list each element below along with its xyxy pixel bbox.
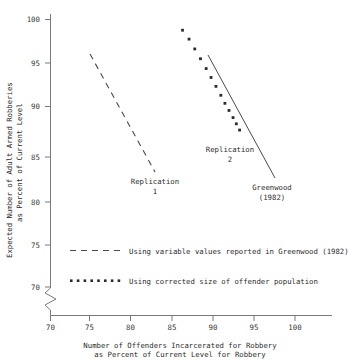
greenwood-solid-line (208, 55, 275, 178)
x-tick-label-100: 100 (288, 323, 301, 332)
y-tick-label-75: 75 (31, 241, 40, 250)
y-tick-label-100: 100 (27, 15, 40, 24)
replication-2-data-point (238, 129, 241, 132)
replication-2-data-point (181, 29, 184, 32)
x-axis-title: Number of Offenders Incarcerated for Rob… (83, 341, 277, 359)
x-tick-label-80: 80 (126, 323, 135, 332)
annotation-replication-1-line2: 1 (153, 187, 157, 196)
annotation-replication-1-line1: Replication (131, 177, 179, 186)
x-axis-tick-labels: 70 75 80 85 90 95 100 (46, 323, 302, 332)
y-axis-ticks (45, 20, 51, 288)
legend-dotted-line-icon (104, 279, 107, 282)
legend-dotted-line-icon (84, 279, 87, 282)
y-axis-title: Expected Number of Adult Armed Robberies… (5, 82, 24, 258)
replication-2-data-point (205, 67, 208, 70)
y-tick-label-85: 85 (31, 153, 40, 162)
annotation-greenwood-line2: (1982) (259, 193, 285, 202)
y-axis-break-icon (45, 288, 56, 310)
y-tick-label-95: 95 (31, 59, 40, 68)
replication-2-data-point (219, 94, 222, 97)
legend-dotted-line-icon (118, 279, 121, 282)
chart-figure: 100 95 90 85 80 75 70 70 75 80 85 90 95 … (0, 0, 348, 361)
legend-entry-dashed: Using variable values reported in Greenw… (70, 247, 348, 256)
series-greenwood-1982 (208, 55, 275, 178)
legend-dotted-line-icon (90, 279, 93, 282)
y-tick-label-80: 80 (31, 198, 40, 207)
y-tick-label-70: 70 (31, 283, 40, 292)
y-axis (45, 14, 56, 315)
legend-dotted-line-icon (70, 279, 73, 282)
x-tick-label-75: 75 (85, 323, 94, 332)
y-tick-label-90: 90 (31, 102, 40, 111)
legend-dotted-line-icon (77, 279, 80, 282)
x-axis-ticks (51, 316, 296, 322)
replication-2-data-point (215, 85, 218, 88)
x-tick-label-90: 90 (209, 323, 218, 332)
annotation-replication-2: Replication 2 (206, 145, 254, 164)
x-tick-label-95: 95 (250, 323, 259, 332)
x-axis-title-line2: as Percent of Current Level for Robbery (94, 350, 266, 359)
replication-1-dashed-line (90, 54, 155, 172)
replication-2-data-point (228, 109, 231, 112)
annotation-replication-1: Replication 1 (131, 177, 179, 196)
legend-label-dotted: Using corrected size of offender populat… (129, 277, 318, 286)
legend-entry-dotted (70, 279, 120, 282)
chart-canvas: 100 95 90 85 80 75 70 70 75 80 85 90 95 … (0, 0, 348, 361)
replication-2-data-point (210, 76, 213, 79)
y-axis-title-line2: as Percent of Current Level (15, 103, 24, 222)
series-replication-1 (90, 54, 155, 172)
replication-2-data-point (235, 122, 238, 125)
legend-dotted-line-icon (97, 279, 100, 282)
annotation-replication-2-line1: Replication (206, 145, 254, 154)
replication-2-data-point (193, 48, 196, 51)
annotation-greenwood-line1: Greenwood (252, 183, 292, 192)
replication-2-data-point (232, 116, 235, 119)
annotation-replication-2-line2: 2 (228, 155, 232, 164)
x-axis-title-line1: Number of Offenders Incarcerated for Rob… (83, 341, 277, 350)
x-tick-label-85: 85 (168, 323, 177, 332)
replication-2-data-point (188, 38, 191, 41)
series-replication-2 (181, 29, 241, 132)
y-axis-tick-labels: 100 95 90 85 80 75 70 (27, 15, 40, 292)
chart-legend: Using variable values reported in Greenw… (70, 247, 348, 286)
annotation-greenwood: Greenwood (1982) (252, 183, 292, 202)
x-tick-label-70: 70 (46, 323, 55, 332)
y-axis-title-line1: Expected Number of Adult Armed Robberies (5, 82, 14, 258)
replication-2-data-point (224, 102, 227, 105)
replication-2-data-point (199, 57, 202, 60)
legend-dotted-line-icon (111, 279, 114, 282)
legend-label-dashed: Using variable values reported in Greenw… (129, 247, 348, 256)
